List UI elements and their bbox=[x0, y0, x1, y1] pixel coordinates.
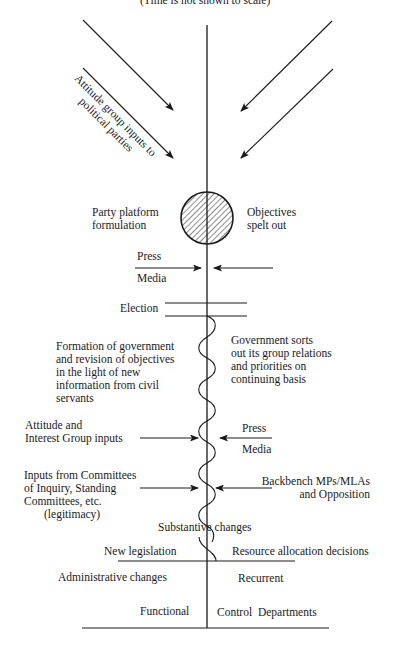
resource-allocation-label: Resource allocation decisions bbox=[232, 545, 369, 558]
functional-label: Functional bbox=[140, 605, 189, 618]
party-platform-label: Party platform formulation bbox=[92, 206, 159, 232]
substantive-changes-label: Substantive changes bbox=[158, 521, 252, 534]
press-label-2: Press bbox=[242, 422, 266, 435]
formation-label: Formation of government and revision of … bbox=[56, 340, 174, 405]
press-label-1: Press bbox=[137, 250, 161, 263]
media-label-2: Media bbox=[242, 443, 271, 456]
election-label: Election bbox=[120, 302, 158, 315]
backbench-label: Backbench MPs/MLAs and Opposition bbox=[240, 475, 370, 501]
media-label-1: Media bbox=[137, 272, 166, 285]
administrative-changes-label: Administrative changes bbox=[58, 571, 167, 584]
government-sorts-label: Government sorts out its group relations… bbox=[231, 334, 332, 386]
party-platform-circle bbox=[181, 192, 233, 244]
objectives-label: Objectives spelt out bbox=[247, 206, 296, 232]
diagram-subtitle: (Time is not shown to scale) bbox=[140, 0, 270, 7]
input-arrow-right-upper bbox=[241, 21, 332, 111]
input-arrow-right-lower bbox=[241, 69, 333, 158]
attitude-interest-label: Attitude and Interest Group inputs bbox=[25, 419, 123, 445]
committees-label: Inputs from Committees of Inquiry, Stand… bbox=[24, 469, 136, 521]
new-legislation-label: New legislation bbox=[104, 545, 177, 558]
diagram-graphics bbox=[0, 0, 397, 658]
control-departments-label: Control Departments bbox=[217, 606, 317, 619]
recurrent-label: Recurrent bbox=[238, 572, 283, 585]
